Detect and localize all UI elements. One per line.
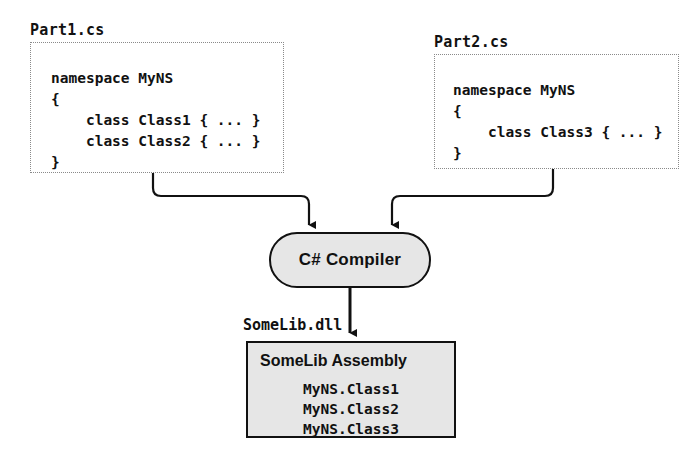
- source-code-part2: namespace MyNS { class Class3 { ... } }: [453, 80, 663, 164]
- diagram-canvas: Part1.cs namespace MyNS { class Class1 {…: [0, 0, 698, 473]
- assembly-type-item: MyNS.Class2: [248, 399, 454, 419]
- source-code-part1: namespace MyNS { class Class1 { ... } cl…: [51, 68, 261, 173]
- source-file-box-part2: namespace MyNS { class Class3 { ... } }: [434, 54, 679, 169]
- assembly-type-list: MyNS.Class1 MyNS.Class2 MyNS.Class3: [248, 379, 454, 439]
- arrow-part1-to-compiler: [153, 172, 309, 225]
- compiler-label: C# Compiler: [299, 250, 401, 270]
- source-file-box-part1: namespace MyNS { class Class1 { ... } cl…: [30, 42, 284, 173]
- arrow-part2-to-compiler: [392, 169, 553, 225]
- source-file-label-part2: Part2.cs: [434, 33, 509, 51]
- assembly-title: SomeLib Assembly: [260, 352, 407, 370]
- output-file-label: SomeLib.dll: [243, 316, 342, 334]
- compiler-node: C# Compiler: [269, 232, 431, 288]
- assembly-type-item: MyNS.Class3: [248, 419, 454, 439]
- assembly-box: SomeLib Assembly MyNS.Class1 MyNS.Class2…: [246, 341, 456, 438]
- assembly-type-item: MyNS.Class1: [248, 379, 454, 399]
- source-file-label-part1: Part1.cs: [30, 21, 105, 39]
